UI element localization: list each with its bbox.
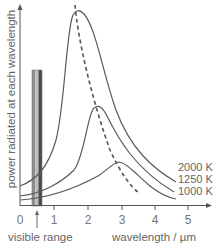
x-tick-5: 5 (182, 213, 194, 227)
x-axis-label: wavelength / µm (112, 231, 196, 243)
visible-range-label: visible range (8, 231, 73, 243)
x-tick-1: 1 (48, 213, 60, 227)
legend-2000k: 2000 K (178, 161, 213, 173)
peak-locus-dashed (75, 5, 139, 193)
visible-range-arrow (35, 210, 39, 228)
x-tick-3: 3 (116, 213, 128, 227)
x-axis (20, 203, 212, 210)
curve-1250k (20, 106, 174, 196)
y-axis-label: power radiated at each wavelength (5, 9, 19, 189)
legend-1250k: 1250 K (178, 173, 213, 185)
curve-2000k (20, 11, 176, 186)
visible-range-band (32, 70, 42, 206)
x-tick-0: 0 (14, 213, 26, 227)
legend-1000k: 1000 K (178, 185, 213, 197)
x-tick-4: 4 (149, 213, 161, 227)
x-tick-2: 2 (82, 213, 94, 227)
